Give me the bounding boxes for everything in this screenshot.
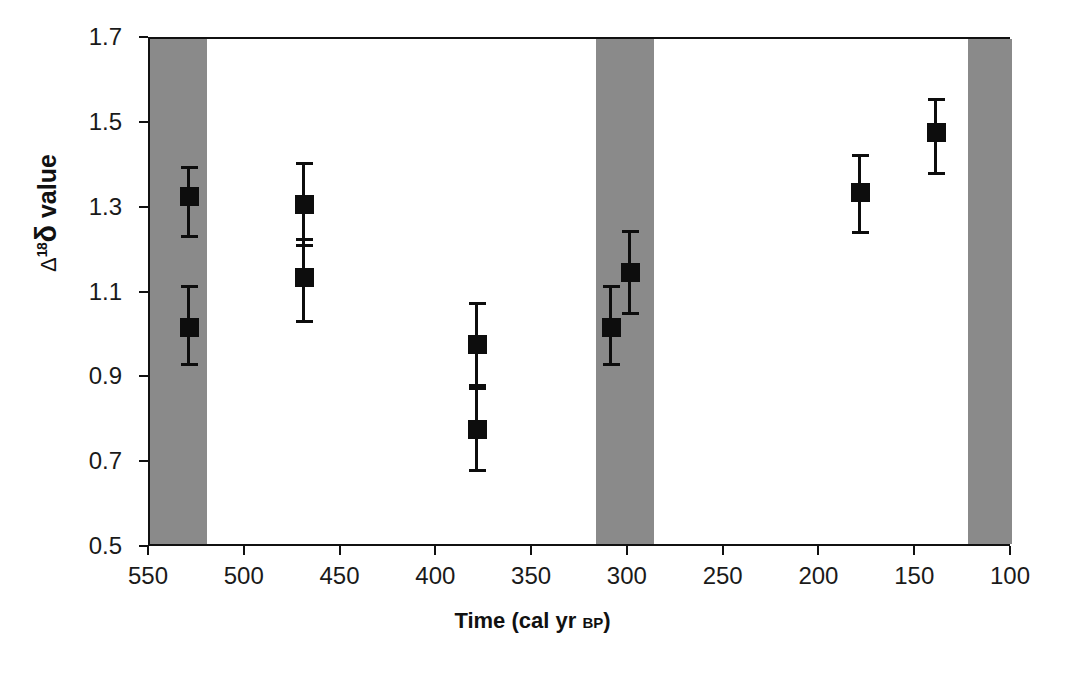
error-bar-cap-upper [852, 154, 869, 157]
data-marker[interactable] [851, 183, 870, 202]
error-bar-cap-upper [296, 162, 313, 165]
error-bar-cap-lower [181, 235, 198, 238]
y-axis-tick-mark [139, 291, 148, 293]
error-bar-cap-upper [603, 285, 620, 288]
data-marker[interactable] [180, 318, 199, 337]
x-axis-tick-mark [243, 546, 245, 555]
x-axis-title-main: Time (cal yr [454, 608, 582, 633]
data-marker[interactable] [927, 123, 946, 142]
data-marker[interactable] [468, 335, 487, 354]
error-bar-cap-upper [622, 230, 639, 233]
error-bar-cap-lower [622, 312, 639, 315]
data-marker[interactable] [602, 318, 621, 337]
x-axis-title-close: ) [603, 608, 610, 633]
plot-area [148, 37, 1010, 546]
x-axis-tick-label: 200 [778, 564, 858, 588]
x-axis-title-bp: BP [582, 614, 603, 631]
data-marker[interactable] [180, 187, 199, 206]
y-axis-tick-mark [139, 121, 148, 123]
error-bar-cap-upper [928, 98, 945, 101]
y-axis-tick-label: 0.7 [52, 449, 122, 473]
x-axis-tick-mark [817, 546, 819, 555]
x-axis-tick-mark [530, 546, 532, 555]
x-axis-tick-label: 550 [108, 564, 188, 588]
data-marker[interactable] [468, 420, 487, 439]
y-axis-tick-label: 1.7 [52, 25, 122, 49]
y-axis-tick-label: 1.1 [52, 280, 122, 304]
band-left [150, 39, 207, 544]
y-axis-tick-mark [139, 460, 148, 462]
y-axis-title-delta-lower: δ [30, 225, 62, 243]
x-axis-tick-label: 300 [587, 564, 667, 588]
x-axis-tick-label: 450 [300, 564, 380, 588]
y-axis-tick-label: 1.3 [52, 195, 122, 219]
y-axis-tick-mark [139, 375, 148, 377]
x-axis-tick-mark [913, 546, 915, 555]
error-bar-cap-lower [469, 469, 486, 472]
band-middle [596, 39, 653, 544]
x-axis-tick-mark [339, 546, 341, 555]
y-axis-tick-mark [139, 36, 148, 38]
error-bar-cap-upper [296, 238, 313, 241]
x-axis-tick-label: 150 [874, 564, 954, 588]
chart-figure: Δ18δ value Time (cal yr BP) 0.50.70.91.1… [0, 0, 1065, 686]
x-axis-tick-label: 100 [970, 564, 1050, 588]
x-axis-tick-mark [722, 546, 724, 555]
y-axis-title-delta-cap: Δ [36, 257, 61, 272]
error-bar-cap-lower [852, 231, 869, 234]
data-marker[interactable] [295, 268, 314, 287]
x-axis-title: Time (cal yr BP) [0, 608, 1065, 634]
band-right [968, 39, 1012, 544]
data-marker[interactable] [295, 195, 314, 214]
error-bar-cap-lower [296, 320, 313, 323]
error-bar-cap-lower [928, 172, 945, 175]
error-bar-cap-upper [469, 387, 486, 390]
y-axis-tick-label: 0.9 [52, 364, 122, 388]
x-axis-tick-mark [626, 546, 628, 555]
x-axis-tick-mark [1009, 546, 1011, 555]
x-axis-tick-label: 250 [683, 564, 763, 588]
x-axis-tick-mark [147, 546, 149, 555]
y-axis-tick-label: 1.5 [52, 110, 122, 134]
x-axis-tick-mark [434, 546, 436, 555]
data-marker[interactable] [621, 263, 640, 282]
x-axis-tick-label: 350 [491, 564, 571, 588]
y-axis-tick-mark [139, 206, 148, 208]
error-bar-cap-upper [181, 166, 198, 169]
plot-inner [150, 39, 1008, 544]
x-axis-tick-label: 500 [204, 564, 284, 588]
error-bar-cap-lower [603, 363, 620, 366]
x-axis-tick-label: 400 [395, 564, 475, 588]
error-bar-cap-upper [181, 285, 198, 288]
error-bar-cap-lower [181, 363, 198, 366]
y-axis-title-superscript: 18 [34, 243, 50, 258]
y-axis-tick-label: 0.5 [52, 534, 122, 558]
error-bar-cap-upper [469, 302, 486, 305]
